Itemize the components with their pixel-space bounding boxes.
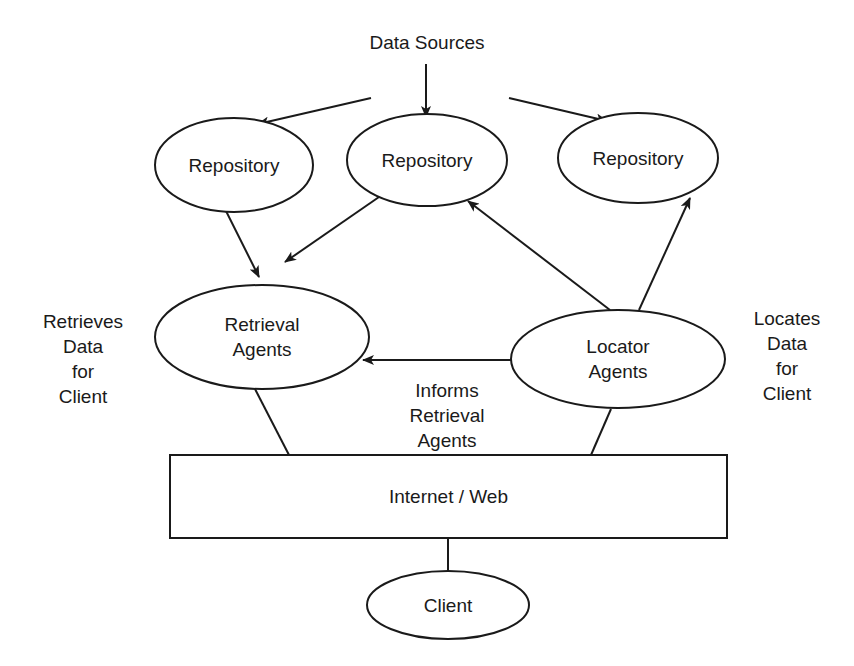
locator-agents-node: LocatorAgents — [511, 310, 725, 408]
link-retrieval-agents-to-internet-web — [255, 389, 289, 455]
retrieves-note: RetrievesDataforClient — [43, 311, 123, 407]
arrow-locator-agents-to-repo-right — [639, 198, 690, 310]
locator-agents-label: Locator — [586, 336, 650, 357]
internet-web-label: Internet / Web — [389, 486, 508, 507]
nodes: RepositoryRepositoryRepositoryRetrievalA… — [155, 113, 727, 639]
retrieval-agents-label: Retrieval — [225, 314, 300, 335]
repo-right-node: Repository — [558, 113, 718, 203]
locator-agents-ellipse — [511, 310, 725, 408]
informs-note-text: Agents — [417, 430, 476, 451]
internet-web-node: Internet / Web — [170, 455, 727, 538]
arrow-data-sources-to-repo-right — [509, 98, 607, 121]
repo-left-label: Repository — [189, 155, 280, 176]
repo-center-node: Repository — [347, 114, 507, 206]
locates-note-text: Client — [763, 383, 812, 404]
repo-center-label: Repository — [382, 150, 473, 171]
informs-note: InformsRetrievalAgents — [410, 380, 485, 451]
title-text: Data Sources — [369, 32, 484, 53]
retrieves-note-text: Data — [63, 336, 104, 357]
informs-note-text: Informs — [415, 380, 478, 401]
arrow-data-sources-to-repo-left — [258, 98, 371, 124]
retrieval-agents-node: RetrievalAgents — [155, 285, 369, 389]
informs-note-text: Retrieval — [410, 405, 485, 426]
repo-left-node: Repository — [155, 118, 313, 212]
locates-note-text: for — [776, 358, 799, 379]
locates-note: LocatesDataforClient — [754, 308, 821, 404]
agent-architecture-diagram: RepositoryRepositoryRepositoryRetrievalA… — [0, 0, 854, 666]
client-node: Client — [367, 571, 529, 639]
retrieval-agents-ellipse — [155, 285, 369, 389]
repo-right-label: Repository — [593, 148, 684, 169]
arrow-repo-left-to-retrieval-agents — [224, 207, 259, 277]
retrieves-note-text: Client — [59, 386, 108, 407]
retrieval-agents-label: Agents — [232, 339, 291, 360]
retrieves-note-text: Retrieves — [43, 311, 123, 332]
arrow-repo-center-to-retrieval-agents — [285, 197, 379, 262]
locates-note-text: Locates — [754, 308, 821, 329]
locator-agents-label: Agents — [588, 361, 647, 382]
link-locator-agents-to-internet-web — [591, 409, 611, 455]
arrow-locator-agents-to-repo-center — [468, 201, 610, 310]
client-label: Client — [424, 595, 473, 616]
locates-note-text: Data — [767, 333, 808, 354]
title: Data Sources — [369, 32, 484, 53]
retrieves-note-text: for — [72, 361, 95, 382]
